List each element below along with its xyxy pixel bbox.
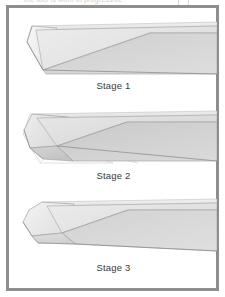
diagram-panel-stage-1: Stage 1 <box>10 11 217 103</box>
stage-1-label: Stage 1 <box>10 80 217 91</box>
stage-3-illustration <box>10 191 217 263</box>
stage-3-label: Stage 3 <box>10 262 217 273</box>
figure-frame: Stage 1 <box>6 5 219 291</box>
stage-2-illustration <box>10 101 217 173</box>
diagram-panel-stage-2: Stage 2 <box>10 101 217 193</box>
top-caption-text: the tool is worn in progressive <box>24 0 122 4</box>
stage-2-label: Stage 2 <box>10 170 217 181</box>
figure-frame-inner-border: Stage 1 <box>9 8 216 288</box>
stage-1-illustration <box>10 11 217 83</box>
diagram-panel-stage-3: Stage 3 <box>10 191 217 283</box>
